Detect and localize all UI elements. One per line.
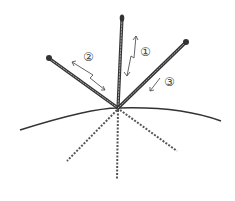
dashed-path-right [120, 110, 177, 151]
needle-left-handle-icon [46, 55, 52, 61]
needles [46, 15, 189, 109]
label-2: ② [83, 50, 94, 64]
dashed-path-center [117, 110, 118, 180]
dashed-path-left [67, 110, 117, 161]
needle-diagram: ① ② ③ [0, 0, 235, 201]
zigzag-arrow-1-icon [127, 36, 136, 76]
arrow-3-icon [150, 78, 160, 91]
label-1: ① [140, 45, 151, 59]
needle-right-handle-icon [183, 39, 189, 45]
needle-vertical-handle-icon [120, 15, 125, 22]
subsurface-paths [67, 110, 177, 180]
label-3: ③ [164, 75, 175, 89]
